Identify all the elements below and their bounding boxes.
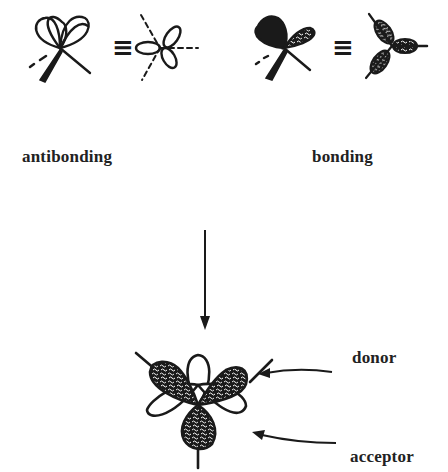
donor-label: donor — [352, 348, 396, 368]
combined-orbital — [136, 353, 272, 468]
acceptor-label: acceptor — [350, 447, 414, 467]
antibonding-orbital-projection — [136, 15, 198, 80]
bonding-orbital-projection — [366, 14, 427, 78]
donor-arrow — [258, 368, 332, 378]
down-arrow — [200, 230, 210, 330]
orbital-diagram: ≡ ≡ — [0, 0, 448, 472]
equivalence-symbol-right: ≡ — [332, 32, 354, 62]
bonding-orbital-perspective — [256, 16, 315, 80]
bonding-label: bonding — [312, 147, 373, 167]
equivalence-symbol-left: ≡ — [112, 32, 134, 62]
antibonding-label: antibonding — [22, 147, 112, 167]
antibonding-orbital-perspective — [30, 17, 90, 82]
acceptor-arrow — [252, 430, 336, 443]
